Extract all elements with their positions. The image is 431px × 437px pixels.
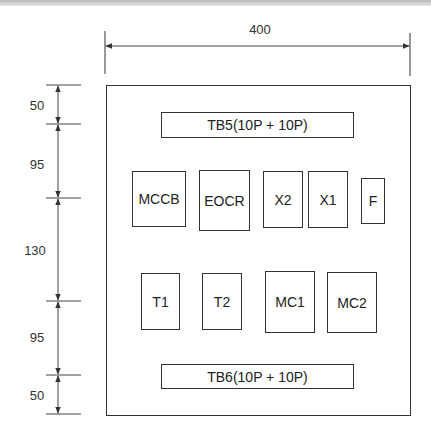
component-x1: X1 <box>308 171 348 228</box>
height-dimension-label-2: 95 <box>22 157 52 172</box>
height-dimension-label-5: 50 <box>22 388 52 403</box>
terminal-block-tb6: TB6(10P + 10P) <box>161 364 354 389</box>
component-t2: T2 <box>202 273 242 330</box>
component-x2: X2 <box>263 171 303 228</box>
height-dimension-label-3: 130 <box>18 243 52 258</box>
component-mccb: MCCB <box>132 171 186 227</box>
height-dimension-label-1: 50 <box>22 98 52 113</box>
height-dimension-label-4: 95 <box>22 330 52 345</box>
component-eocr: EOCR <box>199 170 250 231</box>
width-dimension-label: 400 <box>240 22 280 37</box>
component-mc2: MC2 <box>327 272 377 333</box>
component-mc1: MC1 <box>265 271 315 333</box>
terminal-block-tb5: TB5(10P + 10P) <box>161 112 354 138</box>
component-t1: T1 <box>141 273 180 330</box>
component-f: F <box>361 178 385 224</box>
